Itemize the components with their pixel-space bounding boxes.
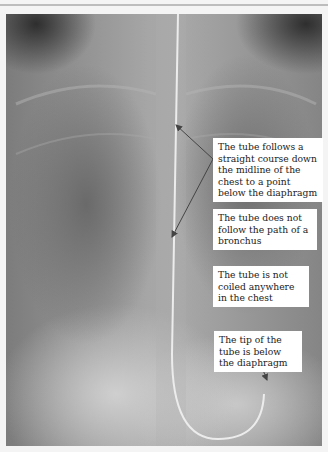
arrow-midline-upper (176, 125, 213, 159)
annotation-not-coiled: The tube is not coiled anywhere in the c… (213, 266, 309, 307)
arrow-midline-lower (172, 159, 213, 237)
annotation-midline-course: The tube follows a straight course down … (213, 138, 323, 202)
annotation-tip-below-diaphragm: The tip of the tube is below the diaphra… (214, 331, 302, 372)
annotation-not-bronchus: The tube does not follow the path of a b… (213, 209, 317, 250)
